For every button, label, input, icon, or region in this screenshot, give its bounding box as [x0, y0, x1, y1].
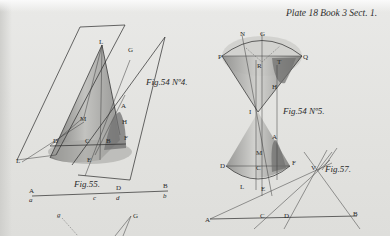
figure-caption: Fig.54 Nº4.: [145, 77, 188, 87]
label: I: [249, 108, 252, 116]
label: g: [57, 211, 61, 219]
label: A: [272, 133, 277, 141]
figure-caption: Fig.54 Nº5.: [282, 106, 325, 116]
label: d: [116, 194, 120, 202]
label: D: [284, 212, 289, 220]
label: R: [257, 62, 262, 70]
label: P: [218, 53, 222, 61]
label: B: [106, 137, 111, 145]
label: A: [121, 102, 126, 110]
label: D: [53, 137, 58, 145]
label: c: [93, 194, 97, 202]
label: F: [124, 134, 128, 142]
figure-caption: Fig.55.: [73, 179, 100, 189]
label: A: [29, 187, 34, 195]
label: a: [29, 196, 33, 204]
label: N: [240, 30, 245, 38]
figure-54-4: L G M A H D C B F E L Fig.54 Nº4.: [16, 25, 188, 180]
figure-caption: Fig.57.: [324, 164, 351, 174]
figure-55: A D B a c d b Fig.55.: [29, 179, 168, 204]
label: D: [220, 162, 225, 170]
label: C: [256, 164, 261, 172]
plate-title: Plate 18 Book 3 Sect. 1.: [285, 8, 377, 18]
label: G: [128, 46, 133, 54]
label: C: [85, 137, 90, 145]
label: F: [292, 159, 296, 167]
label: C: [260, 212, 265, 220]
label: A: [205, 216, 210, 224]
label: M: [256, 149, 263, 157]
label: T: [277, 58, 282, 66]
plate-drawing: Plate 18 Book 3 Sect. 1. L G M A H D C B…: [0, 0, 390, 236]
label: E: [261, 185, 265, 193]
label: M: [80, 115, 87, 123]
figure-54-5: N G P Q R T H I A M D C F L E Fig.54 Nº5…: [218, 30, 325, 196]
figure-56-partial: g G: [57, 211, 138, 236]
label: b: [163, 192, 167, 200]
engraving-plate: Plate 18 Book 3 Sect. 1. L G M A H D C B…: [0, 0, 390, 236]
label: L: [16, 157, 20, 165]
label: D: [116, 184, 121, 192]
label: E: [87, 156, 91, 164]
label: B: [353, 210, 358, 218]
label: H: [122, 118, 127, 126]
label: B: [163, 182, 168, 190]
label: Q: [303, 53, 308, 61]
label: G: [260, 30, 265, 38]
label: V: [311, 164, 316, 172]
label: H: [272, 83, 277, 91]
label: L: [99, 38, 103, 46]
label: L: [240, 183, 244, 191]
label: G: [133, 212, 138, 220]
